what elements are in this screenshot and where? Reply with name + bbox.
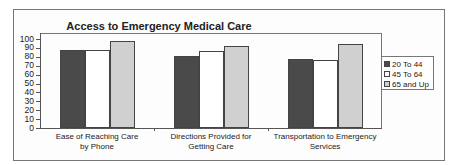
bar-65-and-up [224, 46, 249, 128]
y-tick-label: 50 [8, 79, 34, 88]
bar-65-and-up [338, 44, 363, 128]
legend-item: 45 To 64 [384, 69, 431, 79]
bar-65-and-up [110, 41, 135, 128]
x-axis [40, 128, 382, 129]
chart-title: Access to Emergency Medical Care [14, 20, 304, 32]
x-category-label: Transportation to EmergencyServices [270, 132, 380, 152]
legend-item: 20 To 44 [384, 59, 431, 69]
y-tick [36, 92, 40, 93]
y-tick [36, 57, 40, 58]
y-tick [36, 119, 40, 120]
bar-20-to-44 [60, 50, 85, 128]
legend-label: 20 To 44 [392, 60, 423, 69]
bar-45-to-64 [313, 60, 338, 128]
x-label-line: Transportation to Emergency [270, 132, 380, 142]
y-tick [36, 128, 40, 129]
y-tick-label: 100 [8, 35, 34, 44]
legend: 20 To 4445 To 6465 and Up [381, 56, 434, 90]
bar-45-to-64 [199, 51, 224, 128]
legend-swatch-icon [384, 71, 390, 77]
y-tick-label: 80 [8, 52, 34, 61]
legend-swatch-icon [384, 61, 390, 67]
legend-swatch-icon [384, 81, 390, 87]
x-label-line: Directions Provided for [156, 132, 266, 142]
legend-label: 45 To 64 [392, 70, 423, 79]
y-tick [36, 101, 40, 102]
x-category-label: Directions Provided forGetting Care [156, 132, 266, 152]
y-tick-label: 70 [8, 61, 34, 70]
bar-20-to-44 [174, 56, 199, 128]
legend-item: 65 and Up [384, 79, 431, 89]
bar-20-to-44 [288, 59, 313, 128]
x-category-tick [154, 128, 155, 131]
y-tick [36, 75, 40, 76]
y-tick [36, 110, 40, 111]
x-category-label: Ease of Reaching Careby Phone [42, 132, 152, 152]
y-tick [36, 66, 40, 67]
y-tick-label: 90 [8, 43, 34, 52]
legend-label: 65 and Up [392, 80, 429, 89]
y-tick [36, 84, 40, 85]
y-tick [36, 48, 40, 49]
x-label-line: Ease of Reaching Care [42, 132, 152, 142]
x-label-line: Getting Care [156, 142, 266, 152]
y-tick-label: 20 [8, 106, 34, 115]
y-tick-label: 60 [8, 70, 34, 79]
bar-45-to-64 [85, 50, 110, 128]
y-tick-label: 10 [8, 115, 34, 124]
y-tick-label: 30 [8, 97, 34, 106]
y-tick-label: 40 [8, 88, 34, 97]
y-tick-label: 0 [8, 124, 34, 133]
x-category-tick [268, 128, 269, 131]
y-axis [40, 33, 41, 129]
x-label-line: by Phone [42, 142, 152, 152]
x-label-line: Services [270, 142, 380, 152]
y-tick [36, 39, 40, 40]
